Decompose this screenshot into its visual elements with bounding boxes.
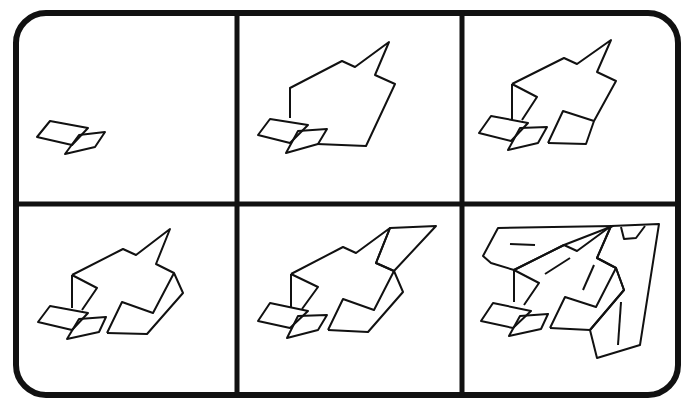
intake-edge [291,274,318,309]
tail-fin-left [37,121,88,145]
panel-step-1: Step 1 [37,121,105,154]
panel-step-5: Step 5 [258,226,436,338]
wing-left [483,226,613,270]
tail-fin-right [65,132,105,154]
intake-edge [514,270,539,305]
detail-line-body-1 [545,258,570,274]
panel-step-2: Step 2 [258,42,395,153]
detail-line-wing-right [618,302,621,345]
panel-step-6: Step 6 [481,224,659,358]
detail-line-wing [510,244,535,245]
tail-fin-right [286,129,327,153]
intake-edge [72,275,97,310]
wing-right [590,224,659,358]
tail-fin-right [287,315,327,338]
tail-fin-right [509,314,548,336]
panel-step-4: Step 4 [38,229,183,339]
drawing-steps-sheet: Step 1 Step 2 Step 3 Step 4 Step 5 [0,0,683,404]
tail-fin-right [67,317,106,339]
detail-line-body-2 [583,265,594,290]
canopy-notch [621,226,645,239]
wing-root-panel [328,271,394,330]
intake-edge [512,84,537,120]
wing-root-panel [107,273,174,333]
panel-step-3: Step 3 [479,40,616,150]
wing-root-panel [550,268,616,328]
tail-fin-right [508,127,547,150]
